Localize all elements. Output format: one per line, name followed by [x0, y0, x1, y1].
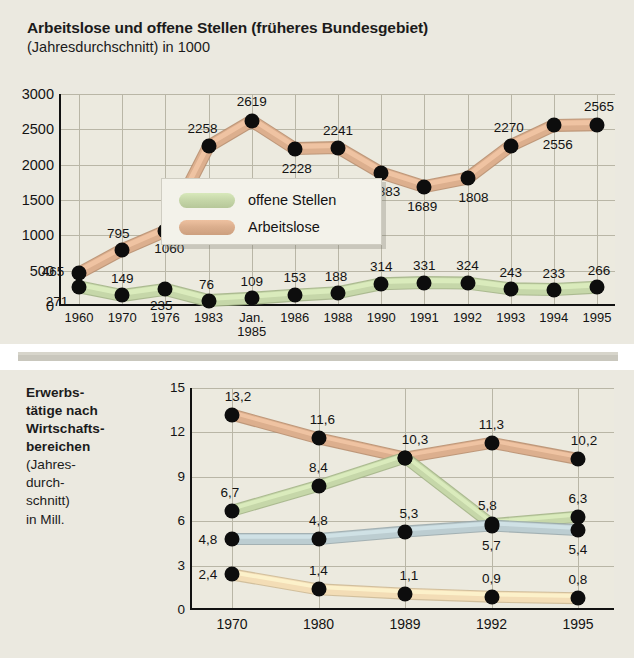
- data-point-marker: [158, 282, 173, 297]
- x-axis-tick-label: 1960: [65, 311, 94, 325]
- x-axis-tick-label: 1992: [453, 311, 482, 325]
- data-point-label: 795: [107, 225, 130, 240]
- x-axis-tick-label: 1993: [496, 311, 525, 325]
- y-axis-tick-label: 3000: [22, 86, 54, 102]
- panel2-title-line-3: bereichen: [26, 438, 146, 456]
- data-point-label: 465: [42, 264, 65, 279]
- data-point-marker: [201, 293, 216, 308]
- data-point-marker: [546, 282, 561, 297]
- panel2-title-line-1: tätige nach: [26, 402, 146, 420]
- x-axis-tick-label: 1995: [583, 311, 612, 325]
- data-point-marker: [571, 523, 586, 538]
- data-point-label: 5,4: [569, 542, 588, 557]
- data-point-marker: [417, 179, 432, 194]
- legend-box: offene Stellen Arbeitslose: [161, 178, 382, 245]
- y-axis-tick-label: 9: [177, 469, 185, 484]
- data-point-label: 2619: [237, 93, 267, 108]
- data-point-marker: [331, 140, 346, 155]
- legend-label-offene-stellen: offene Stellen: [248, 192, 336, 208]
- data-point-label: 2270: [494, 119, 524, 134]
- panel2-title-line-7: in Mill.: [26, 511, 146, 529]
- data-point-label: 109: [240, 274, 263, 289]
- legend-swatch-tan: [179, 220, 235, 235]
- data-point-marker: [225, 503, 240, 518]
- data-point-label: 149: [111, 271, 134, 286]
- data-point-label: 1,1: [400, 567, 419, 582]
- data-point-marker: [287, 288, 302, 303]
- x-axis-tick-label: 1990: [367, 311, 396, 325]
- data-point-label: 2565: [584, 98, 614, 113]
- data-point-marker: [201, 139, 216, 154]
- data-point-label: 153: [284, 270, 307, 285]
- data-point-label: 235: [150, 298, 173, 313]
- data-point-label: 5,3: [400, 505, 419, 520]
- page-root: Arbeitslose und offene Stellen (früheres…: [0, 0, 634, 658]
- chart-panel-unemployment: Arbeitslose und offene Stellen (früheres…: [0, 0, 634, 344]
- data-point-label: 266: [588, 263, 611, 278]
- x-axis-tick-label: 1970: [108, 311, 137, 325]
- panel-separator: [18, 352, 618, 361]
- data-point-label: 10,2: [571, 433, 597, 448]
- page-subtitle: (Jahresdurchschnitt) in 1000: [27, 38, 607, 57]
- data-point-label: 11,6: [310, 412, 335, 427]
- data-point-marker: [484, 589, 499, 604]
- data-point-marker: [311, 531, 326, 546]
- data-point-label: 76: [199, 276, 214, 291]
- legend-item-arbeitslose: Arbeitslose: [179, 217, 320, 237]
- panel2-title-line-6: schnitt): [26, 492, 146, 510]
- data-point-marker: [546, 118, 561, 133]
- y-axis-tick-label: 2000: [22, 156, 54, 172]
- chart-panel-employment: Erwerbs-tätige nachWirtschafts-bereichen…: [0, 370, 634, 658]
- x-axis-tick-label: 1980: [303, 616, 334, 632]
- y-axis-tick-label: 3: [177, 558, 185, 573]
- data-point-label: 5,7: [482, 537, 501, 552]
- data-point-marker: [590, 280, 605, 295]
- data-point-marker: [571, 591, 586, 606]
- plot-area-employment: 036912151970198019891992199513,211,610,3…: [190, 388, 614, 610]
- data-point-marker: [417, 275, 432, 290]
- data-point-marker: [331, 285, 346, 300]
- data-point-label: 1808: [458, 190, 488, 205]
- data-point-label: 6,3: [569, 490, 588, 505]
- data-point-marker: [460, 276, 475, 291]
- panel2-title-line-5: durch-: [26, 474, 146, 492]
- data-point-marker: [115, 288, 130, 303]
- data-point-label: 243: [499, 264, 522, 279]
- y-axis-tick-label: 15: [170, 380, 185, 395]
- data-point-marker: [225, 531, 240, 546]
- y-axis-tick-label: 6: [177, 513, 185, 528]
- data-point-marker: [503, 138, 518, 153]
- data-point-label: 324: [456, 258, 479, 273]
- data-point-label: 314: [370, 258, 393, 273]
- data-point-marker: [374, 276, 389, 291]
- data-point-label: 0,8: [569, 572, 588, 587]
- data-point-label: 10,3: [402, 431, 428, 446]
- legend-item-offene-stellen: offene Stellen: [179, 190, 336, 210]
- data-point-marker: [398, 524, 413, 539]
- data-point-label: 2241: [323, 122, 353, 137]
- x-axis-tick-label: 1983: [194, 311, 223, 325]
- data-point-label: 331: [413, 257, 436, 272]
- data-point-marker: [460, 171, 475, 186]
- data-point-marker: [311, 431, 326, 446]
- data-point-marker: [398, 586, 413, 601]
- x-axis-tick-label: 1989: [389, 616, 420, 632]
- panel2-title-block: Erwerbs-tätige nachWirtschafts-bereichen…: [26, 384, 146, 529]
- panel2-title-line-4: (Jahres-: [26, 456, 146, 474]
- data-point-marker: [72, 279, 87, 294]
- data-point-label: 6,7: [221, 484, 240, 499]
- data-point-label: 4,8: [199, 531, 218, 546]
- y-axis-tick-label: 1000: [22, 227, 54, 243]
- data-point-label: 5,8: [478, 498, 497, 513]
- data-point-marker: [225, 407, 240, 422]
- x-axis-tick-label: 1992: [476, 616, 507, 632]
- data-point-label: 0,9: [482, 570, 501, 585]
- data-point-label: 1689: [407, 198, 437, 213]
- data-point-label: 188: [325, 268, 348, 283]
- panel2-title-line-0: Erwerbs-: [26, 384, 146, 402]
- data-point-label: 2258: [187, 121, 217, 136]
- data-point-label: 2228: [282, 160, 312, 175]
- x-axis-tick-label: Jan.1985: [237, 311, 266, 338]
- data-point-marker: [244, 113, 259, 128]
- page-title: Arbeitslose und offene Stellen (früheres…: [27, 18, 607, 37]
